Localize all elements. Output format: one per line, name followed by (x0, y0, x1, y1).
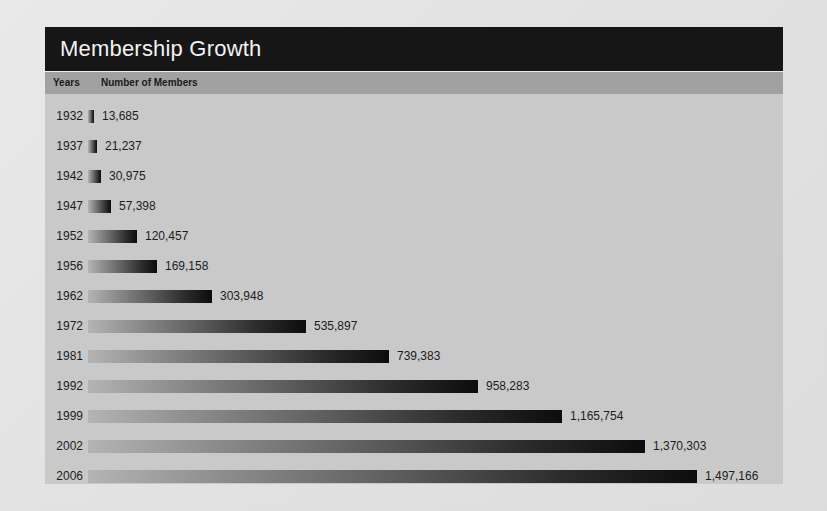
bar-row-year-label: 1956 (45, 259, 83, 273)
bar-row: 193213,685 (45, 102, 783, 132)
bar (88, 410, 562, 423)
bar-row-year-label: 1947 (45, 199, 83, 213)
bar-row: 1956169,158 (45, 252, 783, 282)
page-title: Membership Growth (60, 36, 261, 62)
bar-value-label: 1,497,166 (705, 469, 758, 483)
bar (88, 380, 478, 393)
bar-row-year-label: 1952 (45, 229, 83, 243)
bar-row: 193721,237 (45, 132, 783, 162)
bar (88, 230, 137, 243)
bar-row: 20021,370,303 (45, 432, 783, 462)
bar-row: 1972535,897 (45, 312, 783, 342)
bar-value-label: 303,948 (220, 289, 263, 303)
bar-row-year-label: 1937 (45, 139, 83, 153)
membership-growth-chart-panel: Membership Growth Years Number of Member… (45, 27, 783, 484)
bar-row-year-label: 1972 (45, 319, 83, 333)
bar-row: 1962303,948 (45, 282, 783, 312)
bar-value-label: 169,158 (165, 259, 208, 273)
bar-value-label: 1,165,754 (570, 409, 623, 423)
bar (88, 110, 94, 123)
bar (88, 200, 111, 213)
bar (88, 140, 97, 153)
bar-row-year-label: 1942 (45, 169, 83, 183)
bar-row-year-label: 1981 (45, 349, 83, 363)
bar-value-label: 958,283 (486, 379, 529, 393)
bar-row: 20061,497,166 (45, 462, 783, 492)
bar-row-year-label: 1992 (45, 379, 83, 393)
bar-value-label: 1,370,303 (653, 439, 706, 453)
bar-row-year-label: 2002 (45, 439, 83, 453)
bar-row-year-label: 1999 (45, 409, 83, 423)
bar-row: 19991,165,754 (45, 402, 783, 432)
bar-row: 194757,398 (45, 192, 783, 222)
bar-value-label: 13,685 (102, 109, 139, 123)
bar-row: 194230,975 (45, 162, 783, 192)
bar (88, 350, 389, 363)
bar (88, 260, 157, 273)
bar-row: 1992958,283 (45, 372, 783, 402)
bar-row-year-label: 1932 (45, 109, 83, 123)
chart-title-bar: Membership Growth (45, 27, 783, 71)
bar-row: 1952120,457 (45, 222, 783, 252)
bar-value-label: 120,457 (145, 229, 188, 243)
chart-plot-area: 193213,685193721,237194230,975194757,398… (45, 94, 783, 484)
column-header-row: Years Number of Members (45, 72, 783, 94)
bar-value-label: 21,237 (105, 139, 142, 153)
bar-value-label: 30,975 (109, 169, 146, 183)
bar-value-label: 535,897 (314, 319, 357, 333)
bar (88, 320, 306, 333)
bar-row-year-label: 1962 (45, 289, 83, 303)
bar (88, 170, 101, 183)
column-header-years: Years (53, 77, 80, 88)
bar (88, 290, 212, 303)
bar-value-label: 739,383 (397, 349, 440, 363)
column-header-members: Number of Members (101, 77, 198, 88)
bar-value-label: 57,398 (119, 199, 156, 213)
bar (88, 440, 645, 453)
bar (88, 470, 697, 483)
bar-row: 1981739,383 (45, 342, 783, 372)
bar-row-year-label: 2006 (45, 469, 83, 483)
